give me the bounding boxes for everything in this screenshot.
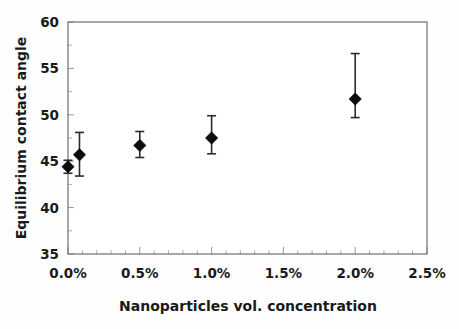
x-tick-label: 0.0% xyxy=(49,265,87,281)
equilibrium-contact-angle-scatter-chart: 354045505560 0.0%0.5%1.0%1.5%2.0%2.5% Eq… xyxy=(0,0,459,329)
y-axis-title: Equilibrium contact angle xyxy=(13,37,29,240)
y-tick-label: 60 xyxy=(40,14,59,30)
x-tick-label: 2.0% xyxy=(336,265,374,281)
y-tick-label: 40 xyxy=(40,200,59,216)
y-axis-tick-labels: 354045505560 xyxy=(40,14,59,262)
y-tick-label: 55 xyxy=(40,60,59,76)
x-tick-label: 1.5% xyxy=(265,265,303,281)
x-tick-label: 0.5% xyxy=(121,265,159,281)
y-tick-label: 45 xyxy=(40,153,59,169)
x-axis-tick-labels: 0.0%0.5%1.0%1.5%2.0%2.5% xyxy=(49,265,446,281)
y-tick-label: 50 xyxy=(40,107,59,123)
y-tick-label: 35 xyxy=(40,246,59,262)
x-axis-title: Nanoparticles vol. concentration xyxy=(119,298,377,314)
plot-area-background xyxy=(68,22,427,254)
x-tick-label: 1.0% xyxy=(193,265,231,281)
x-tick-label: 2.5% xyxy=(408,265,446,281)
chart-figure: 354045505560 0.0%0.5%1.0%1.5%2.0%2.5% Eq… xyxy=(0,0,459,329)
